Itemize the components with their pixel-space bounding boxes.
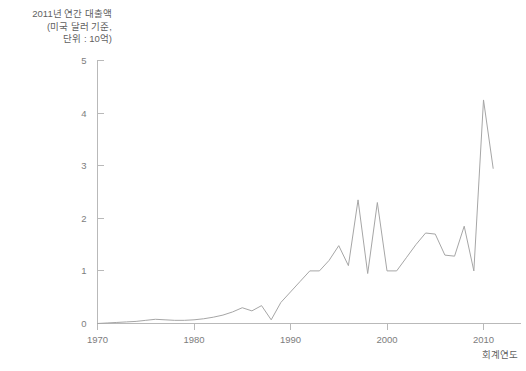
x-tick-label: 1970 xyxy=(87,334,108,345)
y-tick-label: 4 xyxy=(81,108,86,119)
data-series xyxy=(98,100,494,324)
x-tick-label: 1980 xyxy=(183,334,204,345)
y-tick-label: 3 xyxy=(81,160,86,171)
chart-container: 2011년 연간 대출액 (미국 달러 기준, 단위 : 10억) 012345… xyxy=(0,0,526,371)
y-tick-label: 2 xyxy=(81,213,86,224)
y-tick-label: 1 xyxy=(81,265,86,276)
x-tick-label: 2010 xyxy=(473,334,494,345)
series-line xyxy=(98,100,494,324)
x-tick-label: 2000 xyxy=(376,334,397,345)
y-tick-label: 5 xyxy=(81,55,86,66)
x-axis: 19701980199020002010 xyxy=(87,324,521,345)
x-tick-label: 1990 xyxy=(280,334,301,345)
y-tick-label: 0 xyxy=(81,318,86,329)
x-axis-title: 회계연도 xyxy=(430,349,518,362)
y-axis: 012345 xyxy=(81,55,103,329)
line-chart-plot: 012345 19701980199020002010 xyxy=(0,0,526,371)
